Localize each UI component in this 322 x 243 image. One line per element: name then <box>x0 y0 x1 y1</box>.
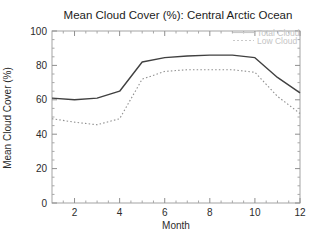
x-tick-label: 6 <box>162 207 168 218</box>
legend: Total Cloud Low Cloud <box>233 28 300 46</box>
x-tick-label: 2 <box>72 207 78 218</box>
chart-title: Mean Cloud Cover (%): Central Arctic Oce… <box>64 9 293 21</box>
y-tick-label: 0 <box>41 198 47 209</box>
x-tick-label: 8 <box>207 207 213 218</box>
x-tick-label: 4 <box>117 207 123 218</box>
y-tick-label: 60 <box>36 94 48 105</box>
legend-label-low-cloud: Low Cloud <box>257 36 297 46</box>
x-tick-label: 10 <box>249 207 261 218</box>
cloud-cover-chart: 24681012020406080100 Mean Cloud Cover (%… <box>0 0 322 243</box>
y-tick-label: 20 <box>36 163 48 174</box>
y-tick-label: 100 <box>30 26 47 37</box>
y-axis-label: Mean Cloud Cover (%) <box>2 67 13 169</box>
x-axis-label: Month <box>162 220 190 231</box>
plot-area: 24681012020406080100 Mean Cloud Cover (%… <box>0 0 322 243</box>
series-line-total-cloud <box>52 55 300 100</box>
plot-generated: 24681012020406080100 <box>30 26 306 219</box>
series-line-low-cloud <box>52 70 300 125</box>
y-tick-label: 80 <box>36 60 48 71</box>
x-tick-label: 12 <box>294 207 306 218</box>
y-tick-label: 40 <box>36 129 48 140</box>
